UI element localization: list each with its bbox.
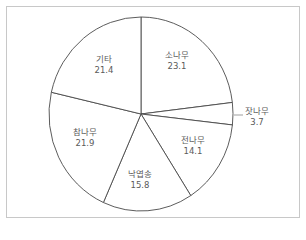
slice-label-nakyeopsong: 낙엽송 15.8 bbox=[128, 169, 152, 191]
slice-label-value: 21.4 bbox=[95, 65, 114, 76]
slice-label-jatnamu: 잣나무 3.7 bbox=[245, 106, 269, 128]
slice-label-value: 3.7 bbox=[245, 117, 269, 128]
slice-label-value: 14.1 bbox=[181, 146, 205, 157]
slice-label-chamnamu: 참나무 21.9 bbox=[73, 127, 97, 149]
slice-label-name: 기타 bbox=[95, 54, 114, 65]
slice-label-name: 참나무 bbox=[73, 127, 97, 138]
slice-label-value: 23.1 bbox=[165, 61, 189, 72]
slice-label-sonamu: 소나무 23.1 bbox=[165, 50, 189, 72]
slice-label-value: 15.8 bbox=[128, 180, 152, 191]
slice-label-name: 소나무 bbox=[165, 50, 189, 61]
slice-label-name: 전나무 bbox=[181, 135, 205, 146]
slice-label-value: 21.9 bbox=[73, 138, 97, 149]
slice-label-name: 잣나무 bbox=[245, 106, 269, 117]
slice-label-gita: 기타 21.4 bbox=[95, 54, 114, 76]
slice-label-jeonnamu: 전나무 14.1 bbox=[181, 135, 205, 157]
slice-label-name: 낙엽송 bbox=[128, 169, 152, 180]
